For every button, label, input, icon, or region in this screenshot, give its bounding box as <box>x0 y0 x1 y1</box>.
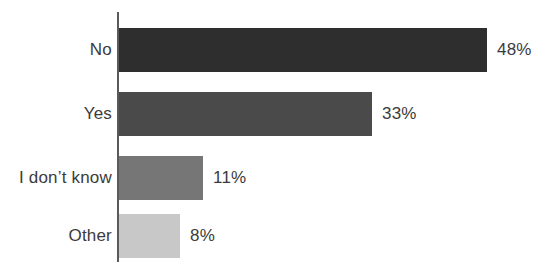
bar-row: Other 8% <box>0 214 534 258</box>
value-label-i-dont-know: 11% <box>213 156 246 200</box>
value-label-other: 8% <box>190 214 215 258</box>
bar-row: I don’t know 11% <box>0 156 534 200</box>
bar-i-dont-know <box>119 156 203 200</box>
bar-chart: No 48% Yes 33% I don’t know 11% Other 8% <box>0 0 534 274</box>
category-label-i-dont-know: I don’t know <box>19 156 112 200</box>
bar-row: Yes 33% <box>0 92 534 136</box>
bar-row: No 48% <box>0 28 534 72</box>
value-label-yes: 33% <box>382 92 417 136</box>
value-label-no: 48% <box>497 28 532 72</box>
category-label-no: No <box>90 28 112 72</box>
bar-yes <box>119 92 372 136</box>
bar-no <box>119 28 487 72</box>
plot-area: No 48% Yes 33% I don’t know 11% Other 8% <box>0 0 534 274</box>
bar-other <box>119 214 180 258</box>
category-label-other: Other <box>68 214 112 258</box>
category-label-yes: Yes <box>84 92 112 136</box>
